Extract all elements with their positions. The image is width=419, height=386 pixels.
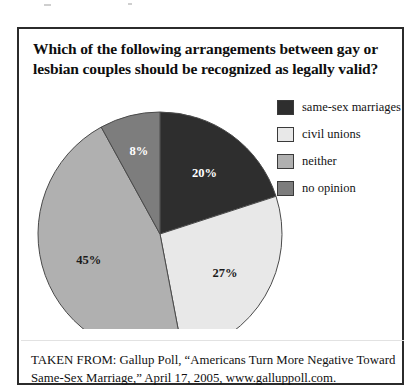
figure-title: Which of the following arrangements betw… bbox=[33, 39, 385, 80]
caption-line-1: TAKEN FROM: Gallup Poll, “Americans Turn… bbox=[31, 351, 393, 369]
legend-item-no-opinion[interactable]: no opinion bbox=[277, 176, 403, 201]
legend-item-same-sex-marriages[interactable]: same-sex marriages bbox=[277, 95, 403, 120]
pie-chart-svg: 20%27%45%8% bbox=[19, 84, 284, 329]
figure-source-caption: TAKEN FROM: Gallup Poll, “Americans Turn… bbox=[31, 351, 393, 386]
legend-label-same-sex-marriages: same-sex marriages bbox=[302, 101, 401, 115]
scan-artifact-strip bbox=[0, 0, 419, 14]
legend-item-civil-unions[interactable]: civil unions bbox=[277, 122, 403, 147]
legend-item-neither[interactable]: neither bbox=[277, 149, 403, 174]
figure-frame: Which of the following arrangements betw… bbox=[17, 27, 404, 385]
pie-slice-label-same-sex-marriages: 20% bbox=[192, 166, 217, 180]
legend-swatch-neither-icon bbox=[277, 154, 294, 169]
legend-swatch-no-opinion-icon bbox=[277, 181, 294, 196]
legend-swatch-civil-unions-icon bbox=[277, 127, 294, 142]
pie-slice-group bbox=[38, 112, 282, 329]
pie-slice-label-neither: 45% bbox=[76, 253, 101, 267]
legend-label-neither: neither bbox=[302, 155, 337, 169]
pie-chart: 20%27%45%8% bbox=[19, 84, 284, 329]
legend-label-no-opinion: no opinion bbox=[302, 182, 356, 196]
pie-slice-label-civil-unions: 27% bbox=[213, 266, 238, 280]
legend: same-sex marriages civil unions neither … bbox=[277, 95, 403, 203]
figure-title-line-2: lesbian couples should be recognized as … bbox=[33, 60, 378, 77]
caption-line-2: Same-Sex Marriage,” April 17, 2005, www.… bbox=[31, 369, 393, 386]
caption-divider bbox=[21, 340, 404, 341]
figure-title-line-1: Which of the following arrangements betw… bbox=[33, 40, 378, 57]
pie-slice-label-no-opinion: 8% bbox=[129, 144, 148, 158]
legend-label-civil-unions: civil unions bbox=[302, 128, 361, 142]
legend-swatch-same-sex-marriages-icon bbox=[277, 100, 294, 115]
